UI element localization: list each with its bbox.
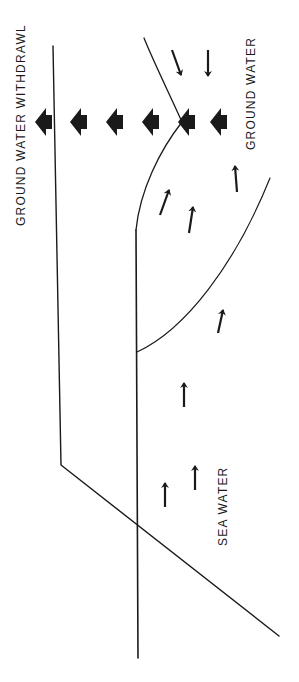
ground-water-flow-arrow-icon	[235, 166, 237, 192]
saltwater-interface-curve	[137, 178, 270, 352]
label-ground-water: GROUND WATER	[244, 37, 258, 150]
block-arrow-icon	[106, 108, 123, 136]
block-arrow-icon	[178, 108, 195, 136]
ground-water-flow-arrow-icon	[189, 207, 193, 233]
block-arrow-icon	[210, 108, 227, 136]
sea-water-flow-arrow-icon	[218, 310, 223, 333]
label-sea-water: SEA WATER	[216, 467, 230, 546]
freshwater-interface-curve	[136, 38, 182, 230]
aquifer-base-line	[136, 230, 138, 658]
withdrawal-arrows	[35, 108, 227, 136]
ground-water-flow-arrow-icon	[160, 190, 169, 215]
block-arrow-icon	[35, 108, 52, 136]
block-arrow-icon	[70, 108, 87, 136]
ground-water-flow-arrow-icon	[172, 50, 181, 75]
label-ground-water-withdrawal: GROUND WATER WITHDRAWL	[14, 24, 28, 226]
block-arrow-icon	[142, 108, 159, 136]
